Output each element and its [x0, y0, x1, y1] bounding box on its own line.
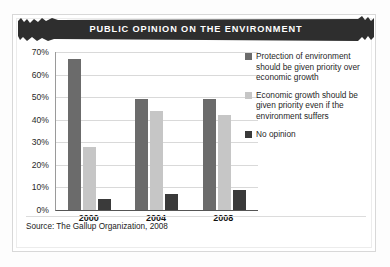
- y-tick-10: 10%: [32, 182, 49, 192]
- chart-figure: PUBLIC OPINION ON THE ENVIRONMENT 70% 60…: [0, 0, 390, 267]
- y-tick-70: 70%: [32, 47, 49, 57]
- legend-item-1: Protection of environment should be give…: [245, 51, 367, 83]
- legend-label-1: Protection of environment should be give…: [256, 51, 367, 83]
- y-axis-ticks: 70% 60% 50% 40% 30% 20% 10% 0%: [22, 52, 52, 210]
- bar-2004-series2: [150, 111, 163, 210]
- y-tick-40: 40%: [32, 115, 49, 125]
- bar-2008-series1: [203, 99, 216, 210]
- y-tick-60: 60%: [32, 70, 49, 80]
- legend-label-3: No opinion: [256, 129, 296, 140]
- bar-2000-series2: [83, 147, 96, 210]
- y-tick-30: 30%: [32, 137, 49, 147]
- bar-2008-series3: [233, 190, 246, 210]
- source-divider: [26, 216, 366, 217]
- x-tick-2008: 2008: [213, 213, 233, 223]
- title-banner: PUBLIC OPINION ON THE ENVIRONMENT: [18, 16, 374, 41]
- chart-title: PUBLIC OPINION ON THE ENVIRONMENT: [18, 24, 374, 34]
- chart-legend: Protection of environment should be give…: [245, 51, 367, 146]
- legend-swatch-icon-1: [245, 53, 252, 60]
- bar-group-2004: [135, 52, 178, 210]
- bar-2004-series1: [135, 99, 148, 210]
- legend-swatch-icon-3: [245, 131, 252, 138]
- legend-swatch-icon-2: [245, 92, 252, 99]
- legend-item-2: Economic growth should be given priority…: [245, 90, 367, 122]
- legend-item-3: No opinion: [245, 129, 367, 140]
- source-note: Source: The Gallup Organization, 2008: [26, 222, 168, 231]
- bar-group-2008: [203, 52, 246, 210]
- y-tick-20: 20%: [32, 160, 49, 170]
- bar-2004-series3: [165, 194, 178, 210]
- bar-2008-series2: [218, 115, 231, 210]
- y-tick-0: 0%: [37, 205, 49, 215]
- bar-2000-series1: [68, 59, 81, 210]
- bar-groups: [56, 52, 258, 210]
- y-tick-50: 50%: [32, 92, 49, 102]
- bar-2000-series3: [98, 199, 111, 210]
- legend-label-2: Economic growth should be given priority…: [256, 90, 367, 122]
- bar-group-2000: [68, 52, 111, 210]
- axes: [55, 52, 258, 211]
